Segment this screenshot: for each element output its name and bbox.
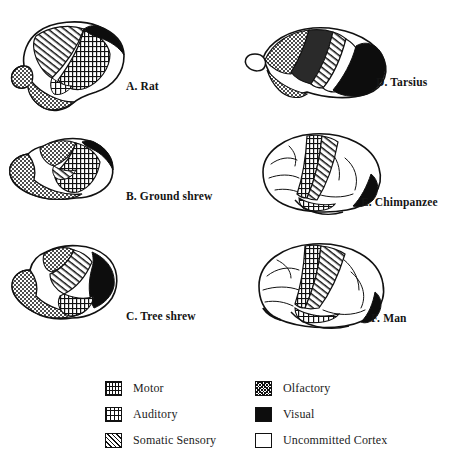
plate-tree-shrew: C. Tree shrew (0, 238, 233, 350)
plate-label-tarsius: D. Tarsius (376, 76, 427, 88)
legend-label-somatic-sensory: Somatic Sensory (133, 433, 216, 448)
legend-swatch-somatic-sensory-icon (105, 433, 122, 448)
legend-item-auditory: Auditory (105, 402, 178, 426)
legend-item-somatic-sensory: Somatic Sensory (105, 428, 216, 452)
tarsius-brain-illustration (233, 16, 413, 120)
plate-label-tree-shrew: C. Tree shrew (126, 310, 196, 322)
legend-swatch-motor-icon (105, 381, 122, 396)
legend-label-motor: Motor (133, 381, 164, 396)
plate-ground-shrew: B. Ground shrew (0, 128, 233, 240)
legend-swatch-auditory-icon (105, 407, 122, 422)
legend-label-auditory: Auditory (133, 407, 178, 422)
man-brain-illustration (233, 238, 413, 342)
legend-swatch-visual-icon (255, 407, 272, 422)
figure-title: Uncommitted Cortex (0, 0, 466, 4)
plate-label-man: F. Man (371, 312, 407, 324)
legend: Motor Auditory Somatic Sensory Olfactory… (105, 376, 445, 458)
legend-swatch-olfactory-icon (255, 381, 272, 396)
plate-label-rat: A. Rat (126, 80, 159, 92)
plate-rat: A. Rat (0, 16, 233, 128)
plate-label-ground-shrew: B. Ground shrew (126, 190, 213, 202)
legend-item-motor: Motor (105, 376, 164, 400)
rat-brain-illustration (0, 16, 160, 120)
legend-item-visual: Visual (255, 402, 315, 426)
legend-item-uncommitted-cortex: Uncommitted Cortex (255, 428, 387, 452)
legend-label-visual: Visual (283, 407, 315, 422)
brain-plates-grid: A. Rat B. Ground shrew (0, 10, 466, 360)
plate-tarsius: D. Tarsius (233, 16, 466, 128)
plate-man: F. Man (233, 238, 466, 350)
tree-shrew-brain-illustration (0, 238, 160, 342)
legend-label-olfactory: Olfactory (283, 381, 330, 396)
plate-label-chimpanzee: E. Chimpanzee (361, 196, 438, 208)
plate-chimpanzee: E. Chimpanzee (233, 128, 466, 240)
legend-swatch-uncommitted-cortex-icon (255, 433, 272, 448)
legend-label-uncommitted-cortex: Uncommitted Cortex (283, 433, 387, 448)
chimpanzee-brain-illustration (233, 128, 413, 228)
legend-item-olfactory: Olfactory (255, 376, 330, 400)
ground-shrew-brain-illustration (0, 128, 160, 228)
